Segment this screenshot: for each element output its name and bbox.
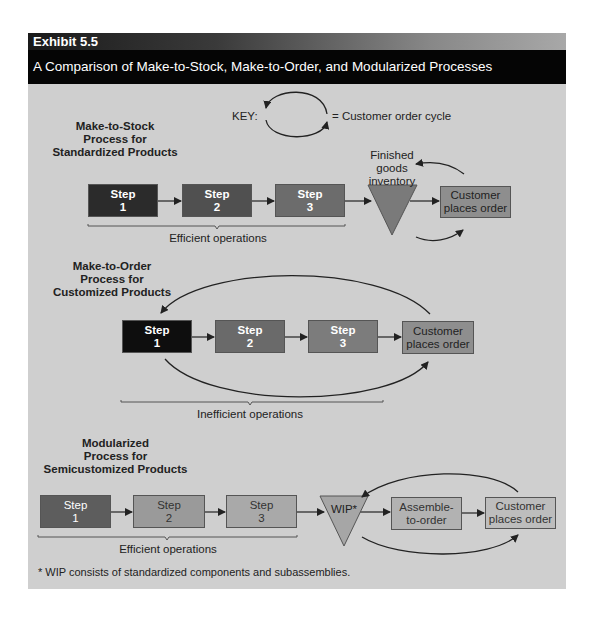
mts-customer-box: Customerplaces order [440, 186, 511, 218]
mto-step-2: Step2 [215, 320, 285, 353]
mts-bracket-label: Efficient operations [150, 232, 286, 245]
key-label: KEY: [232, 110, 258, 123]
mts-step-1: Step1 [88, 184, 158, 217]
footnote: * WIP consists of standardized component… [38, 566, 350, 579]
mod-customer-box: Customerplaces order [485, 497, 556, 529]
key-description: = Customer order cycle [332, 110, 451, 123]
mod-step-3: Step3 [226, 495, 297, 528]
mts-title: Make-to-Stock Process for Standardized P… [40, 120, 190, 159]
row2-bottom-arrow [165, 359, 428, 397]
mod-step-2: Step2 [133, 495, 205, 528]
key-arrow-bottom [266, 120, 327, 137]
mts-step-3: Step3 [275, 184, 345, 217]
finished-goods-triangle [368, 185, 417, 235]
mto-bracket-label: Inefficient operations [180, 408, 320, 421]
finished-goods-label: Finished goods inventory [362, 149, 422, 188]
mod-title: Modularized Process for Semicustomized P… [38, 437, 193, 476]
mts-step-2: Step2 [182, 184, 252, 217]
mto-customer-box: Customerplaces order [402, 321, 474, 354]
row2-top-arrow [161, 276, 430, 314]
key-arrow-top [266, 92, 327, 114]
diagram-arrows [0, 0, 598, 625]
mod-bracket-label: Efficient operations [100, 543, 236, 556]
mto-title: Make-to-Order Process for Customized Pro… [42, 260, 182, 299]
assemble-to-order-box: Assemble-to-order [391, 497, 462, 530]
wip-label: WIP* [326, 503, 362, 516]
mto-step-3: Step3 [308, 320, 378, 353]
mto-step-1: Step1 [122, 320, 192, 353]
mod-step-1: Step1 [40, 495, 111, 528]
